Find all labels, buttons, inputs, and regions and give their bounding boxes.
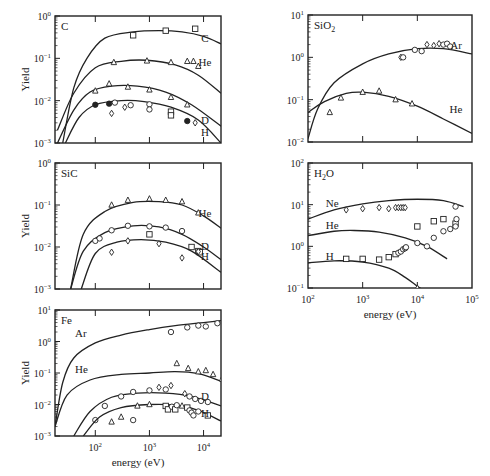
fit-curve — [308, 48, 472, 139]
series-label: He — [326, 219, 339, 231]
svg-text:101: 101 — [291, 9, 304, 21]
svg-text:100: 100 — [291, 51, 305, 63]
figure: 10010−110−210−3YieldCCHeDH10010−110−210−… — [0, 0, 490, 476]
svg-text:10−1: 10−1 — [287, 94, 304, 106]
series-label: D — [201, 390, 209, 402]
svg-text:10−1: 10−1 — [34, 52, 51, 64]
y-axis-label: Yield — [19, 67, 31, 91]
x-tick-labels: 102103104 — [89, 441, 211, 453]
panel-h2o: 10210110010−1102103104105energy (eV)H2ON… — [287, 157, 480, 321]
series-label: Ar — [75, 327, 87, 339]
series-label: H — [201, 126, 209, 138]
y-tick-labels: 10010−110−210−3 — [34, 157, 52, 295]
x-axis-label: energy (eV) — [112, 456, 165, 469]
svg-text:10−2: 10−2 — [34, 399, 52, 411]
series-d — [57, 81, 221, 143]
series-label: D — [201, 114, 209, 126]
series-he — [308, 88, 472, 134]
plot-frame — [308, 15, 472, 142]
y-axis-label: Yield — [19, 214, 31, 238]
svg-text:10−2: 10−2 — [34, 241, 52, 253]
series-label: C — [201, 32, 208, 44]
x-axis-label: energy (eV) — [364, 308, 417, 321]
panel-title: Fe — [61, 314, 72, 326]
y-tick-labels: 10110010−110−210−3 — [34, 304, 52, 442]
svg-text:104: 104 — [411, 293, 425, 305]
panel-title: C — [61, 20, 68, 32]
svg-text:105: 105 — [465, 293, 479, 305]
svg-text:104: 104 — [197, 441, 211, 453]
svg-text:10−1: 10−1 — [34, 199, 51, 211]
series-label: Ar — [450, 39, 462, 51]
svg-text:100: 100 — [38, 157, 52, 169]
svg-text:103: 103 — [356, 293, 370, 305]
svg-text:101: 101 — [291, 199, 304, 211]
series-label: H — [201, 250, 209, 262]
series-c — [63, 26, 221, 143]
x-tick-labels: 102103104105 — [301, 293, 479, 305]
fit-curve — [57, 60, 221, 130]
panel-fe: 10110010−110−210−3102103104energy (eV)Yi… — [19, 304, 225, 469]
svg-text:10−3: 10−3 — [34, 137, 52, 149]
svg-text:10−2: 10−2 — [287, 136, 305, 148]
sputtering-yield-chart: 10010−110−210−3YieldCCHeDH10010−110−210−… — [0, 0, 490, 476]
series-label: H — [201, 407, 209, 419]
panel-title: H2O — [314, 167, 334, 182]
panel-title: SiC — [61, 167, 78, 179]
y-tick-labels: 10210110010−1 — [287, 157, 305, 294]
svg-text:103: 103 — [143, 441, 157, 453]
svg-text:10−3: 10−3 — [34, 430, 52, 442]
y-axis-label: Yield — [19, 361, 31, 385]
series-label: He — [75, 363, 88, 375]
svg-text:102: 102 — [301, 293, 315, 305]
axis-ticks — [308, 15, 417, 142]
fit-curve — [65, 100, 221, 143]
series-label: Ne — [326, 197, 339, 209]
panel-sic: 10010−110−210−3YieldSiCHeDH — [19, 157, 221, 295]
y-tick-labels: 10010−110−210−3 — [34, 10, 52, 149]
series-label: He — [199, 56, 212, 68]
series-label: H — [326, 250, 334, 262]
panel-c: 10010−110−210−3YieldCCHeDH — [19, 10, 221, 149]
svg-text:102: 102 — [291, 157, 305, 169]
series-label: He — [199, 207, 212, 219]
svg-text:101: 101 — [38, 304, 51, 316]
panel-sio2: 10110010−110−2SiO2ArHe — [287, 9, 472, 148]
series-h — [65, 100, 221, 143]
axis-ticks — [55, 16, 204, 143]
svg-text:10−3: 10−3 — [34, 283, 52, 295]
svg-text:100: 100 — [38, 336, 52, 348]
svg-text:10−1: 10−1 — [34, 367, 51, 379]
fit-curve — [308, 92, 472, 133]
panel-title: SiO2 — [314, 19, 335, 34]
y-tick-labels: 10110010−110−2 — [287, 9, 305, 148]
svg-text:100: 100 — [38, 10, 52, 22]
fit-curve — [308, 261, 422, 289]
svg-text:10−1: 10−1 — [287, 282, 304, 294]
svg-text:100: 100 — [291, 240, 305, 252]
series-label: He — [450, 103, 463, 115]
svg-text:102: 102 — [89, 441, 103, 453]
svg-text:10−2: 10−2 — [34, 95, 52, 107]
series-ar — [308, 40, 472, 138]
